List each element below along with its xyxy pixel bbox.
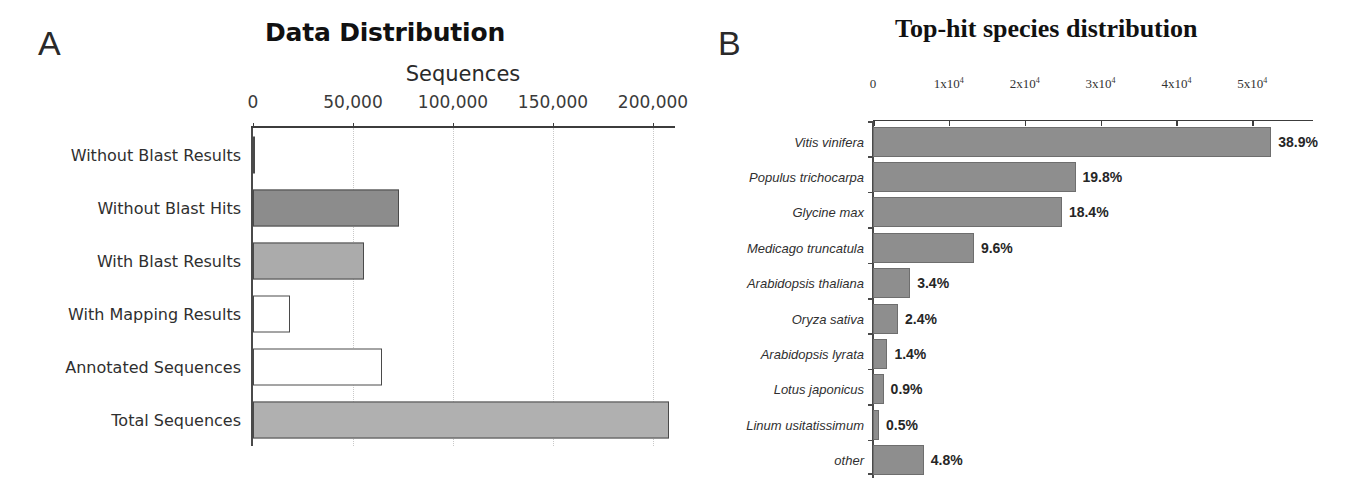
panel-b-bar bbox=[873, 268, 910, 298]
panel-a-category-label: Total Sequences bbox=[111, 410, 241, 429]
panel-b-category-label: Vitis vinifera bbox=[794, 134, 864, 149]
panel-b-category-label: Arabidopsis thaliana bbox=[747, 276, 864, 291]
panel-b-bar-row: Glycine max18.4% bbox=[873, 195, 1293, 230]
panel-b-value-label: 19.8% bbox=[1083, 169, 1123, 185]
panel-a-bar-row: With Blast Results bbox=[253, 234, 673, 287]
panel-a-tick-labels: 050,000100,000150,000200,000 bbox=[253, 92, 673, 116]
panel-b-bar bbox=[873, 127, 1271, 157]
panel-a-tick-label: 100,000 bbox=[418, 92, 488, 112]
panel-a-bar-row: Total Sequences bbox=[253, 393, 673, 446]
panel-a-bar-row: Annotated Sequences bbox=[253, 340, 673, 393]
panel-b-tick-label: 0 bbox=[870, 76, 877, 92]
panel-a-bar bbox=[253, 242, 364, 279]
panel-b-x-axis bbox=[873, 120, 1313, 121]
panel-b-category-label: Medicago truncatula bbox=[747, 240, 864, 255]
panel-a-category-label: Without Blast Results bbox=[71, 145, 241, 164]
panel-b-bar bbox=[873, 197, 1062, 227]
panel-a-tick-label: 50,000 bbox=[323, 92, 382, 112]
panel-b-bar-row: Populus trichocarpa19.8% bbox=[873, 159, 1293, 194]
panel-b-category-label: Lotus japonicus bbox=[774, 382, 864, 397]
panel-a-bar bbox=[253, 295, 290, 332]
panel-a-axis-label: Sequences bbox=[253, 62, 673, 86]
panel-a-plot-area: Without Blast ResultsWithout Blast HitsW… bbox=[253, 128, 673, 446]
panel-b-category-label: Glycine max bbox=[792, 205, 864, 220]
panel-letter-a: A bbox=[38, 26, 61, 60]
panel-a-category-label: With Blast Results bbox=[97, 251, 241, 270]
panel-b-value-label: 0.9% bbox=[891, 381, 923, 397]
panel-b-bar-row: Arabidopsis thaliana3.4% bbox=[873, 266, 1293, 301]
panel-b-bar bbox=[873, 233, 974, 263]
panel-a-bar bbox=[253, 401, 669, 438]
panel-b-value-label: 4.8% bbox=[931, 452, 963, 468]
panel-b-value-label: 3.4% bbox=[917, 275, 949, 291]
panel-a-bar-row: Without Blast Results bbox=[253, 128, 673, 181]
panel-b-bar-row: Vitis vinifera38.9% bbox=[873, 124, 1293, 159]
panel-a-bar bbox=[253, 136, 255, 173]
panel-b-value-label: 1.4% bbox=[894, 346, 926, 362]
panel-b-bar-row: Linum usitatissimum0.5% bbox=[873, 407, 1293, 442]
panel-b-bar bbox=[873, 445, 924, 475]
panel-a-bar-row: With Mapping Results bbox=[253, 287, 673, 340]
panel-b-bar-row: Oryza sativa2.4% bbox=[873, 301, 1293, 336]
panel-a-category-label: Annotated Sequences bbox=[65, 357, 241, 376]
panel-b-tick-label: 5x104 bbox=[1237, 76, 1267, 92]
panel-letter-b: B bbox=[718, 26, 741, 60]
panel-b-bar-row: Lotus japonicus0.9% bbox=[873, 372, 1293, 407]
panel-b-value-label: 0.5% bbox=[886, 417, 918, 433]
panel-b-bar-row: Arabidopsis lyrata1.4% bbox=[873, 336, 1293, 371]
panel-b-y-tick-mark bbox=[868, 121, 873, 123]
panel-b-bar bbox=[873, 410, 879, 440]
panel-b-category-label: Linum usitatissimum bbox=[746, 417, 864, 432]
panel-b-plot-area: Vitis vinifera38.9%Populus trichocarpa19… bbox=[873, 124, 1293, 478]
panel-b-value-label: 18.4% bbox=[1069, 204, 1109, 220]
panel-b-category-label: Arabidopsis lyrata bbox=[761, 347, 864, 362]
panel-a-bar bbox=[253, 189, 399, 226]
panel-b-bar-row: Medicago truncatula9.6% bbox=[873, 230, 1293, 265]
panel-b-tick-label: 3x104 bbox=[1086, 76, 1116, 92]
panel-b-category-label: Oryza sativa bbox=[792, 311, 864, 326]
panel-b-bar bbox=[873, 304, 898, 334]
panel-a: A Data Distribution Sequences 050,000100… bbox=[0, 0, 700, 493]
panel-b-value-label: 9.6% bbox=[981, 240, 1013, 256]
panel-a-bar-row: Without Blast Hits bbox=[253, 181, 673, 234]
panel-b-title: Top-hit species distribution bbox=[895, 14, 1197, 44]
panel-a-category-label: Without Blast Hits bbox=[97, 198, 241, 217]
panel-a-tick-label: 200,000 bbox=[618, 92, 688, 112]
panel-b-category-label: other bbox=[834, 453, 864, 468]
panel-a-tick-label: 150,000 bbox=[518, 92, 588, 112]
panel-b: B Top-hit species distribution 01x1042x1… bbox=[700, 0, 1356, 493]
panel-b-value-label: 2.4% bbox=[905, 311, 937, 327]
panel-b-tick-label: 2x104 bbox=[1010, 76, 1040, 92]
panel-a-title: Data Distribution bbox=[265, 18, 505, 47]
panel-b-category-label: Populus trichocarpa bbox=[749, 170, 864, 185]
panel-b-bar-row: other4.8% bbox=[873, 443, 1293, 478]
panel-b-value-label: 38.9% bbox=[1278, 134, 1318, 150]
panel-b-tick-label: 1x104 bbox=[934, 76, 964, 92]
panel-b-tick-labels: 01x1042x1043x1044x1045x104 bbox=[873, 76, 1313, 98]
panel-b-bar bbox=[873, 162, 1076, 192]
panel-b-tick-label: 4x104 bbox=[1161, 76, 1191, 92]
panel-a-bar bbox=[253, 348, 382, 385]
panel-a-tick-label: 0 bbox=[248, 92, 259, 112]
panel-a-category-label: With Mapping Results bbox=[68, 304, 241, 323]
panel-b-bar bbox=[873, 339, 887, 369]
panel-b-bar bbox=[873, 374, 884, 404]
